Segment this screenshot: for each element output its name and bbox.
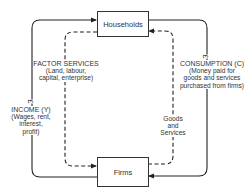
income-title: INCOME (Y) xyxy=(6,106,56,113)
consumption-label: CONSUMPTION (C) (Money paid for goods an… xyxy=(175,60,249,89)
consumption-flow-line xyxy=(148,20,207,176)
factor-services-detail-2: capital, enterprise) xyxy=(33,74,99,81)
goods-services-flow-line xyxy=(148,31,173,164)
goods-services-line-2: and xyxy=(158,122,188,129)
goods-services-label: Goods and Services xyxy=(158,115,188,137)
factor-services-detail-1: (Land, labour, xyxy=(33,67,99,74)
firms-node: Firms xyxy=(97,157,149,187)
income-detail-2: interest, xyxy=(6,120,56,127)
goods-services-line-1: Goods xyxy=(158,115,188,122)
households-node: Households xyxy=(97,11,149,37)
firms-label: Firms xyxy=(114,168,133,177)
households-label: Households xyxy=(103,20,143,29)
factor-services-title: FACTOR SERVICES xyxy=(33,60,99,67)
income-detail-3: profit) xyxy=(6,128,56,135)
factor-services-label: FACTOR SERVICES (Land, labour, capital, … xyxy=(33,60,99,82)
consumption-detail-3: purchased from firms) xyxy=(175,82,249,89)
income-pound-icon: £ xyxy=(27,100,34,104)
consumption-detail-1: (Money paid for xyxy=(175,67,249,74)
factor-services-flow-line xyxy=(65,32,97,166)
goods-services-line-3: Services xyxy=(158,129,188,136)
consumption-title: CONSUMPTION (C) xyxy=(175,60,249,67)
consumption-detail-2: goods and services xyxy=(175,74,249,81)
income-label: INCOME (Y) (Wages, rent, interest, profi… xyxy=(6,106,56,135)
consumption-pound-icon: £ xyxy=(202,55,209,59)
income-detail-1: (Wages, rent, xyxy=(6,113,56,120)
